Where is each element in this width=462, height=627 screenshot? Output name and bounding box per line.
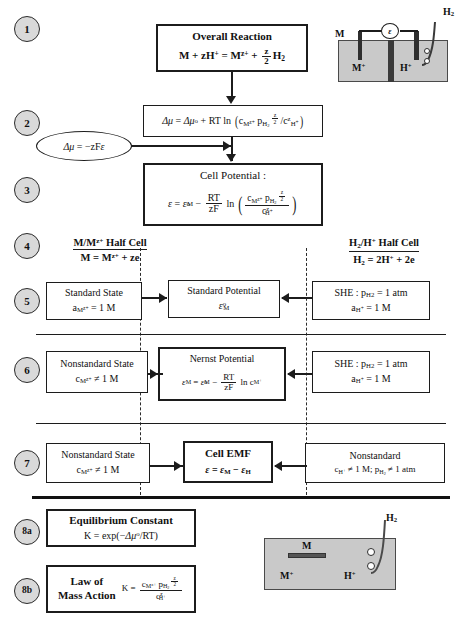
arrowhead-ellipse (223, 141, 231, 151)
label-metal-ion-top: M+ (352, 62, 365, 73)
law-of-mass-action-title-line1: Law of (58, 575, 116, 589)
cell-potential-title: Cell Potential : (200, 169, 266, 183)
nernst-potential-box: Nernst Potential εM = εoM − RTzF ln cM+ (158, 347, 286, 401)
she-row6-line2: aH+ = 1 M (351, 373, 390, 386)
standard-potential-value: εoM (219, 300, 229, 313)
cell-separator-top (388, 40, 394, 82)
label-metal-top: M (335, 28, 344, 39)
equilibrium-constant-box: Equilibrium Constant K = exp(−Δμo/RT) (46, 509, 196, 547)
nonstandard-state-value-row6: cMz+ ≠ 1 M (76, 373, 119, 386)
arrowhead-r7-right (274, 461, 282, 471)
law-of-mass-action-equation: K = cMz+ pH2z2czH+ (122, 577, 184, 602)
arrowhead-r5-left (159, 293, 167, 303)
step-marker-8b: 8b (14, 578, 40, 604)
nonstandard-box-row7-right: Nonstandard cH+ ≠ 1 M; pH2 ≠ 1 atm (305, 443, 445, 483)
step-marker-4: 4 (14, 233, 40, 259)
arrowhead-r7-left (174, 461, 182, 471)
standard-state-value: aMz+ = 1 M (72, 302, 115, 315)
label-metal-bottom: M (302, 540, 311, 551)
voltmeter-label-top: ε (388, 27, 391, 36)
step-label: 4 (24, 241, 30, 252)
equilibrium-constant-title: Equilibrium Constant (69, 514, 173, 528)
nonstandard-state-box-row7: Nonstandard State cMz+ ≠ 1 M (46, 443, 150, 483)
she-row6-line1: SHE : pH2 = 1 atm (334, 358, 407, 371)
step-label: 8b (22, 586, 32, 596)
nonstandard-row7-title: Nonstandard (349, 450, 400, 463)
wire-right-top (400, 30, 418, 32)
right-half-cell-title: H2/H+ Half Cell (349, 237, 419, 252)
cell-emf-box: Cell EMF ε = εM − εH (183, 441, 273, 483)
step-label: 5 (24, 296, 30, 307)
step-marker-2: 2 (14, 110, 40, 136)
label-h-ion-bottom: H+ (344, 570, 356, 581)
nonstandard-row7-value: cH+ ≠ 1 M; pH2 ≠ 1 atm (335, 464, 416, 476)
step-label: 2 (24, 118, 30, 129)
law-of-mass-action-title-line2: Mass Action (58, 589, 116, 603)
step-label: 8a (22, 527, 32, 537)
standard-potential-title: Standard Potential (187, 285, 261, 298)
nernst-potential-title: Nernst Potential (190, 353, 255, 366)
delta-mu-box: Δμ = Δμo + RT ln (cMz+ pH2z2/czH+) (143, 105, 323, 137)
connector-ellipse-trunk (131, 145, 231, 147)
label-h2-top: H2 (443, 6, 454, 17)
section-divider-thick (32, 496, 450, 499)
arrowhead-r5-right (281, 293, 289, 303)
gas-bubble-bottom-1 (367, 548, 375, 556)
nonstandard-state-box-row6: Nonstandard State cMz+ ≠ 1 M (46, 351, 148, 393)
overall-reaction-title: Overall Reaction (192, 30, 272, 44)
separator-row6-row7 (36, 423, 446, 424)
she-standard-box: SHE : pH2 = 1 atm aH+ = 1 M (312, 281, 430, 320)
law-of-mass-action-box: Law of Mass Action K = cMz+ pH2z2czH+ (46, 565, 196, 613)
metal-electrode-top (358, 31, 362, 60)
label-h-ion-top: H+ (400, 62, 412, 73)
she-standard-line2: aH+ = 1 M (351, 302, 390, 315)
right-half-cell-heading: H2/H+ Half Cell H2 = 2H+ + 2e (320, 232, 448, 266)
overall-reaction-equation: M + zH+ = Mz+ + z2H2 (179, 47, 285, 66)
right-half-cell-reaction: H2 = 2H+ + 2e (320, 254, 448, 267)
cell-potential-box: Cell Potential : ε = εoM − RTzF ln (cMz+… (143, 163, 323, 226)
arrowhead-r6-right (287, 369, 295, 379)
step-marker-7: 7 (14, 450, 40, 476)
nonstandard-state-title-row6: Nonstandard State (60, 358, 134, 371)
step-label: 7 (24, 458, 30, 469)
step-marker-8a: 8a (14, 519, 40, 545)
step-label: 6 (24, 365, 30, 376)
metal-plate-bottom (288, 553, 326, 558)
label-h2-bottom: H2 (386, 512, 397, 523)
label-metal-ion-bottom: M+ (280, 570, 293, 581)
overall-reaction-box: Overall Reaction M + zH+ = Mz+ + z2H2 (156, 24, 308, 72)
connector-1-2 (231, 72, 233, 98)
step-marker-5: 5 (14, 288, 40, 314)
voltmeter-icon-top: ε (381, 23, 399, 39)
step-marker-3: 3 (14, 177, 40, 203)
wire-left-top (359, 30, 383, 32)
h2-tube-top (420, 20, 450, 72)
standard-state-box: Standard State aMz+ = 1 M (46, 282, 142, 320)
nonstandard-state-title-row7: Nonstandard State (61, 449, 135, 462)
step-label: 3 (24, 185, 30, 196)
cell-emf-value: ε = εM − εH (205, 464, 250, 477)
h2-tube-bottom (370, 518, 400, 580)
nernst-potential-equation: εM = εoM − RTzF ln cM+ (182, 373, 262, 393)
flowchart-canvas: 1 2 3 4 5 6 7 8a 8b Overall Reaction M +… (0, 0, 462, 627)
left-half-cell-reaction: M = Mz+ + ze (50, 252, 170, 263)
law-of-mass-action-title: Law of Mass Action (58, 575, 116, 603)
separator-row5-row6 (36, 334, 446, 335)
hydrogen-electrode-top (414, 31, 419, 60)
gas-bubble-top-2 (424, 58, 430, 64)
delta-mu-definition-ellipse: Δμ = −zFε (36, 131, 132, 161)
left-half-cell-title: M/Mz+ Half Cell (73, 237, 146, 250)
cell-potential-equation: ε = εoM − RTzF ln (cMz+ pH2z2czH+) (168, 191, 298, 217)
gas-bubble-top-1 (424, 48, 430, 54)
cell-diagram-top: ε M H2 M+ H+ (330, 6, 456, 88)
arrowhead-2-3 (226, 154, 236, 162)
she-nonstandard-box-row6: SHE : pH2 = 1 atm aH+ = 1 M (312, 351, 430, 393)
she-standard-line1: SHE : pH2 = 1 atm (334, 287, 407, 300)
left-half-cell-heading: M/Mz+ Half Cell M = Mz+ + ze (50, 232, 170, 263)
cell-emf-title: Cell EMF (205, 447, 251, 461)
arrowhead-1-2 (226, 96, 236, 104)
standard-potential-box: Standard Potential εoM (168, 280, 280, 318)
arrowhead-r6-left (150, 369, 158, 379)
cell-diagram-bottom: M M+ H+ H2 (262, 508, 452, 616)
step-marker-6: 6 (14, 357, 40, 383)
